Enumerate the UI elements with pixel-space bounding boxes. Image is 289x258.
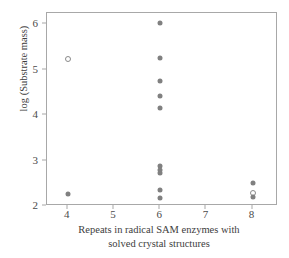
data-point xyxy=(158,188,163,193)
y-axis-tick-mark xyxy=(42,68,46,69)
data-point xyxy=(158,170,163,175)
data-point xyxy=(250,181,255,186)
y-axis-tick-mark xyxy=(42,23,46,24)
data-point xyxy=(158,195,163,200)
data-point xyxy=(65,56,71,62)
x-axis-title: Repeats in radical SAM enzymes with solv… xyxy=(34,223,284,251)
x-axis-tick-label: 8 xyxy=(242,208,262,220)
x-axis-tick-label: 7 xyxy=(195,208,215,220)
y-axis-tick-mark xyxy=(42,205,46,206)
x-axis-title-line-2: solved crystal structures xyxy=(34,237,284,251)
data-point xyxy=(158,94,163,99)
y-axis-tick-mark xyxy=(42,114,46,115)
data-point xyxy=(250,195,255,200)
x-axis-title-line-1: Repeats in radical SAM enzymes with xyxy=(34,223,284,237)
y-axis-tick-label: 2 xyxy=(24,199,38,211)
y-axis-tick-label: 6 xyxy=(24,17,38,29)
x-axis-tick-label: 6 xyxy=(149,208,169,220)
x-axis-tick-label: 4 xyxy=(57,208,77,220)
data-point xyxy=(158,106,163,111)
data-point xyxy=(158,21,163,26)
data-point xyxy=(65,192,70,197)
y-axis-tick-label: 3 xyxy=(24,154,38,166)
data-point xyxy=(158,79,163,84)
data-point xyxy=(158,56,163,61)
y-axis-tick-label: 4 xyxy=(24,108,38,120)
y-axis-tick-label: 5 xyxy=(24,63,38,75)
scatter-plot-figure: Repeats in radical SAM enzymes with solv… xyxy=(0,0,289,258)
x-axis-tick-label: 5 xyxy=(103,208,123,220)
y-axis-tick-mark xyxy=(42,159,46,160)
plot-frame xyxy=(46,12,277,205)
plot-area xyxy=(47,13,276,204)
